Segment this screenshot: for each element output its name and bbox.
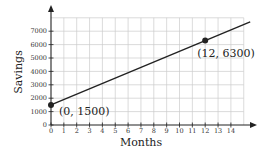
x-tick-label: 9 bbox=[165, 127, 169, 135]
x-tick-label: 0 bbox=[49, 127, 53, 135]
data-point bbox=[202, 38, 208, 44]
x-tick-label: 13 bbox=[214, 127, 222, 135]
x-tick-label: 1 bbox=[62, 127, 66, 135]
y-tick-label: 6000 bbox=[30, 41, 47, 49]
x-tick-label: 11 bbox=[188, 127, 196, 135]
x-axis-arrow-icon bbox=[250, 122, 257, 128]
y-axis-title: Savings bbox=[12, 50, 25, 94]
y-axis-arrow-icon bbox=[48, 5, 54, 12]
x-tick-label: 3 bbox=[87, 127, 91, 135]
savings-line-chart: 0123456789101112131401000200030004000500… bbox=[0, 0, 264, 153]
y-tick-label: 7000 bbox=[30, 27, 47, 35]
y-tick-label: 0 bbox=[43, 121, 47, 129]
y-tick-label: 2000 bbox=[30, 94, 47, 102]
x-tick-label: 7 bbox=[139, 127, 143, 135]
x-tick-label: 4 bbox=[100, 127, 104, 135]
y-tick-label: 1000 bbox=[30, 108, 47, 116]
x-tick-label: 8 bbox=[152, 127, 156, 135]
tick-labels: 0123456789101112131401000200030004000500… bbox=[30, 27, 235, 135]
x-tick-label: 14 bbox=[227, 127, 235, 135]
point-label: (0, 1500) bbox=[59, 105, 110, 118]
y-tick-label: 3000 bbox=[30, 81, 47, 89]
data-points: (0, 1500)(12, 6300) bbox=[48, 38, 255, 118]
y-tick-label: 5000 bbox=[30, 54, 47, 62]
x-tick-label: 10 bbox=[175, 127, 183, 135]
point-label: (12, 6300) bbox=[197, 47, 255, 60]
x-tick-label: 2 bbox=[75, 127, 79, 135]
savings-line bbox=[51, 22, 250, 105]
x-tick-label: 6 bbox=[126, 127, 130, 135]
data-line bbox=[51, 22, 250, 105]
x-axis-title: Months bbox=[120, 136, 162, 149]
x-tick-label: 5 bbox=[113, 127, 117, 135]
x-tick-label: 12 bbox=[201, 127, 209, 135]
y-tick-label: 4000 bbox=[30, 68, 47, 76]
data-point bbox=[48, 102, 54, 108]
